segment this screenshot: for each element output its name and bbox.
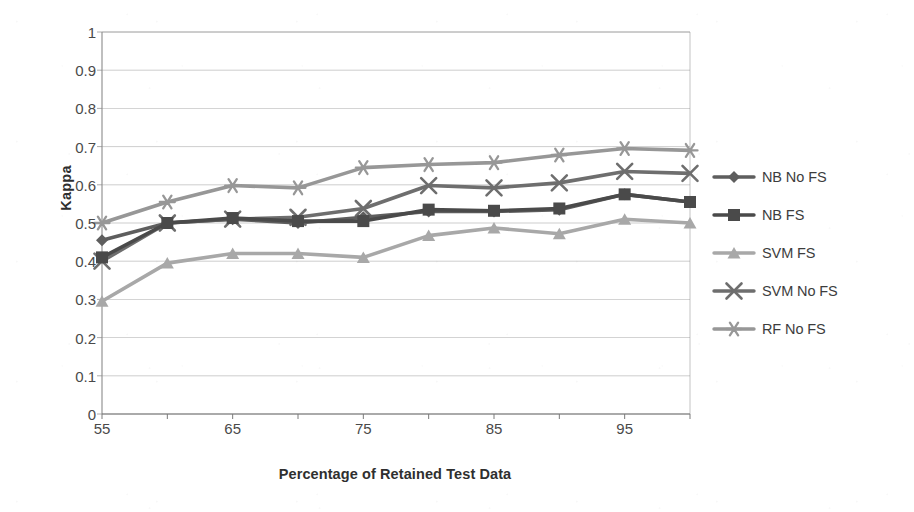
- marker-square: [553, 202, 565, 214]
- marker-square: [161, 217, 173, 229]
- legend-label: RF No FS: [762, 321, 826, 337]
- x-tick-label: 55: [94, 420, 111, 437]
- marker-asterisk: [291, 181, 306, 194]
- marker-square: [684, 196, 696, 208]
- marker-square: [728, 209, 740, 221]
- legend-label: NB FS: [762, 207, 804, 223]
- chart-figure: Kappa 00.10.20.30.40.50.60.70.80.91 5565…: [0, 0, 914, 512]
- marker-square: [619, 188, 631, 200]
- y-tick-label: 0.6: [44, 176, 96, 193]
- x-tick-label: 65: [224, 420, 241, 437]
- y-tick-label: 0.4: [44, 253, 96, 270]
- marker-diamond: [728, 171, 740, 183]
- series-line: [102, 194, 690, 240]
- y-tick-label: 0: [44, 406, 96, 423]
- marker-asterisk: [421, 158, 436, 171]
- y-tick-label: 0.8: [44, 100, 96, 117]
- y-tick-label: 0.5: [44, 215, 96, 232]
- marker-asterisk: [225, 179, 240, 192]
- marker-diamond: [96, 234, 108, 246]
- y-tick-label: 0.1: [44, 367, 96, 384]
- series-svm-fs: [96, 213, 697, 307]
- legend-label: NB No FS: [762, 169, 826, 185]
- x-tick-label: 75: [355, 420, 372, 437]
- series-line: [102, 149, 690, 223]
- legend-marker-triangle-icon: [712, 243, 756, 263]
- legend-marker-diamond-icon: [712, 167, 756, 187]
- x-axis-title: Percentage of Retained Test Data: [100, 466, 690, 482]
- y-tick-label: 0.7: [44, 138, 96, 155]
- legend-item[interactable]: SVM FS: [712, 234, 910, 272]
- x-tick-label: 95: [616, 420, 633, 437]
- legend-marker-square-icon: [712, 205, 756, 225]
- y-tick-label: 1: [44, 24, 96, 41]
- legend-label: SVM No FS: [762, 283, 838, 299]
- legend-item[interactable]: SVM No FS: [712, 272, 910, 310]
- series-line: [102, 219, 690, 301]
- marker-asterisk: [356, 161, 371, 174]
- marker-asterisk: [617, 142, 632, 155]
- marker-square: [423, 204, 435, 216]
- marker-square: [357, 215, 369, 227]
- marker-asterisk: [552, 149, 567, 162]
- marker-asterisk: [160, 196, 175, 209]
- marker-asterisk: [727, 323, 742, 336]
- legend-item[interactable]: RF No FS: [712, 310, 910, 348]
- marker-asterisk: [487, 156, 502, 169]
- marker-square: [292, 215, 304, 227]
- marker-square: [96, 251, 108, 263]
- legend-label: SVM FS: [762, 245, 815, 261]
- y-tick-label: 0.9: [44, 62, 96, 79]
- y-axis-tick-labels: 00.10.20.30.40.50.60.70.80.91: [40, 0, 96, 512]
- legend-marker-asterisk-icon: [712, 319, 756, 339]
- series-nb-fs: [96, 188, 696, 263]
- x-tick-label: 85: [486, 420, 503, 437]
- marker-square: [227, 212, 239, 224]
- legend-marker-cross-icon: [712, 281, 756, 301]
- legend-item[interactable]: NB No FS: [712, 158, 910, 196]
- chart-legend: NB No FSNB FSSVM FSSVM No FSRF No FS: [712, 158, 910, 348]
- legend-item[interactable]: NB FS: [712, 196, 910, 234]
- y-tick-label: 0.3: [44, 291, 96, 308]
- marker-square: [488, 205, 500, 217]
- y-tick-label: 0.2: [44, 329, 96, 346]
